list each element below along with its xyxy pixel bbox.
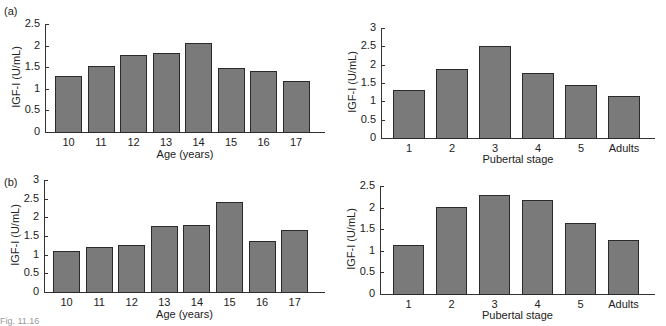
y-tick [45, 46, 49, 47]
x-axis-title: Pubertal stage [381, 153, 655, 165]
bar-2 [436, 69, 468, 139]
bar-5 [565, 223, 596, 295]
y-tick [381, 101, 385, 102]
bar-10 [53, 251, 80, 293]
y-tick [380, 272, 384, 273]
x-category-label: 17 [273, 137, 320, 148]
y-tick-label: 2.5 [349, 180, 375, 191]
bar-15 [218, 68, 245, 133]
y-tick-label: 2.5 [14, 18, 40, 29]
bar-1 [393, 245, 424, 295]
y-tick [45, 24, 49, 25]
y-tick [380, 294, 384, 295]
y-tick [45, 110, 49, 111]
bar-adults [608, 240, 639, 295]
y-tick-label: 0 [350, 132, 376, 143]
x-axis-title: Age (years) [45, 148, 325, 160]
bar-3 [479, 195, 510, 295]
bar-16 [250, 71, 277, 133]
y-axis-title: IGF-I (U/mL) [10, 32, 22, 122]
bar-2 [436, 207, 467, 295]
y-tick-label: 3 [13, 174, 39, 185]
bar-11 [86, 247, 113, 293]
y-tick [380, 251, 384, 252]
y-axis-title: IGF-I (U/mL) [9, 190, 21, 280]
y-tick [380, 186, 384, 187]
x-axis-title: Age (years) [44, 308, 325, 320]
bar-16 [249, 241, 276, 293]
x-axis-title: Pubertal stage [380, 309, 655, 321]
y-axis [45, 24, 46, 132]
y-tick [381, 120, 385, 121]
bar-13 [151, 226, 178, 293]
bar-13 [153, 53, 180, 133]
x-category-label: 17 [271, 297, 318, 308]
y-tick [44, 292, 48, 293]
bar-5 [565, 85, 597, 139]
y-tick [44, 255, 48, 256]
bar-15 [216, 202, 243, 293]
figure-caption: Fig. 11.16 [0, 316, 39, 326]
bar-14 [183, 225, 210, 293]
y-tick [44, 180, 48, 181]
bar-12 [120, 55, 147, 133]
y-tick-label: 0 [14, 126, 40, 137]
y-axis [380, 186, 381, 294]
y-tick [44, 273, 48, 274]
y-tick [44, 199, 48, 200]
bar-14 [185, 43, 212, 133]
y-tick [44, 217, 48, 218]
bar-12 [118, 245, 145, 293]
y-tick [45, 132, 49, 133]
y-tick [381, 65, 385, 66]
bar-10 [55, 76, 82, 133]
y-tick [381, 46, 385, 47]
y-tick [381, 28, 385, 29]
y-tick [44, 236, 48, 237]
y-tick [381, 83, 385, 84]
y-tick-label: 0 [349, 288, 375, 299]
y-tick [45, 89, 49, 90]
y-tick [381, 138, 385, 139]
bar-17 [283, 81, 310, 133]
bar-1 [393, 90, 425, 139]
bar-adults [608, 96, 640, 139]
bar-11 [88, 66, 115, 133]
bar-4 [522, 200, 553, 295]
y-tick [380, 208, 384, 209]
y-tick [45, 67, 49, 68]
panel-label-a: (a) [4, 5, 17, 17]
bar-17 [281, 230, 308, 293]
bar-3 [479, 46, 511, 139]
y-tick-label: 3 [350, 22, 376, 33]
y-tick-label: 0 [13, 286, 39, 297]
y-axis-title: IGF-I (U/mL) [345, 194, 357, 284]
y-axis-title: IGF-I (U/mL) [346, 37, 358, 127]
y-tick [380, 229, 384, 230]
bar-4 [522, 73, 554, 139]
